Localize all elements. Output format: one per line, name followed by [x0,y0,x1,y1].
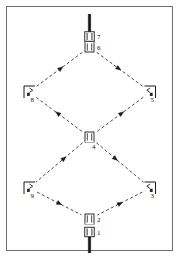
node-6-pin-support[interactable] [85,42,94,52]
node-label-4: 4 [92,143,96,151]
node-label-9: 9 [31,192,35,200]
bottom-stem [88,236,90,253]
node-label-7: 7 [97,33,101,41]
figure-root: 123456789 [0,0,179,256]
node-label-8: 8 [31,96,35,104]
top-stem [88,14,90,33]
node-2-pin-support[interactable] [85,214,94,224]
node-label-2: 2 [97,216,101,224]
node-4-pin-support[interactable] [85,132,94,142]
node-1-fixed-support[interactable] [85,227,95,237]
node-label-1: 1 [97,229,101,237]
node-label-5: 5 [151,96,155,104]
node-label-3: 3 [151,192,155,200]
truss-diagram: 123456789 [0,0,179,256]
node-label-6: 6 [97,44,101,52]
node-7-fixed-support[interactable] [85,32,95,42]
